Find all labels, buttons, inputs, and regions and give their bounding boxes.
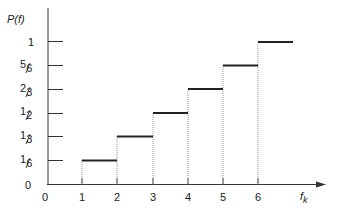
svg-text:0: 0 — [42, 191, 48, 203]
x-axis-arrow-icon — [316, 182, 326, 188]
y-ticks — [48, 42, 63, 161]
svg-text:3: 3 — [150, 191, 156, 203]
svg-text:0: 0 — [25, 179, 31, 191]
svg-text:6: 6 — [255, 191, 261, 203]
step-chart: P(f) 1 56/ 23 12 13 16 0 0 1 2 3 4 5 6 f… — [0, 0, 337, 215]
y-axis-label: P(f) — [7, 13, 25, 25]
x-axis-label: fk — [300, 190, 308, 205]
step-levels — [82, 42, 293, 161]
x-tick-labels: 0 1 2 3 4 5 6 — [42, 191, 261, 203]
svg-text:2: 2 — [114, 191, 120, 203]
svg-text:5: 5 — [220, 191, 226, 203]
y-tick-labels: 1 56/ 23 12 13 16 0 — [20, 36, 34, 191]
svg-text:1: 1 — [28, 36, 34, 48]
svg-text:4: 4 — [185, 191, 191, 203]
svg-text:1: 1 — [79, 191, 85, 203]
x-ticks — [82, 178, 258, 185]
